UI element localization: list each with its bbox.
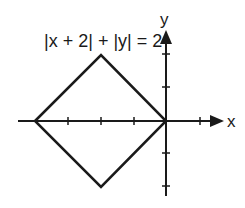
graph-canvas: |x + 2| + |y| = 2 x y: [0, 0, 245, 208]
y-axis-label: y: [160, 10, 169, 29]
x-axis-label: x: [227, 112, 236, 131]
x-axis-arrow-icon: [210, 115, 224, 127]
equation-label: |x + 2| + |y| = 2: [44, 31, 162, 51]
